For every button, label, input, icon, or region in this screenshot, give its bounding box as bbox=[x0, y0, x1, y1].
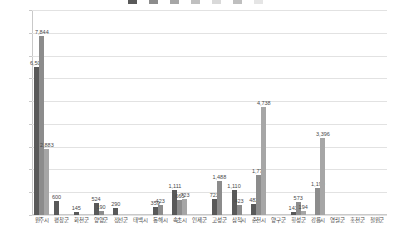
x-axis-labels: 원주시평창군화천군양양군정선군태백시동해시속초시인제군고성군삼척시춘천시양구군횡… bbox=[32, 216, 387, 236]
bar-group bbox=[190, 10, 210, 215]
legend-item[interactable] bbox=[254, 0, 265, 4]
x-axis-category-label: 횡성군 bbox=[288, 216, 308, 236]
bar-groups: 6,5027,8442,8836001455241902903594231,11… bbox=[32, 10, 387, 215]
bar-value-label: 1,111 bbox=[168, 183, 181, 190]
bar-value-label: 1,488 bbox=[212, 174, 226, 181]
legend-item[interactable] bbox=[170, 0, 181, 4]
bar[interactable]: 194 bbox=[301, 211, 306, 215]
bar[interactable]: 290 bbox=[113, 208, 118, 215]
bar-value-label: 600 bbox=[52, 194, 61, 201]
bar[interactable]: 190 bbox=[99, 211, 104, 215]
bar-group: 524190 bbox=[91, 10, 111, 215]
bar[interactable]: 1,488 bbox=[217, 181, 222, 215]
x-axis-category-label: 고성군 bbox=[209, 216, 229, 236]
bar-group bbox=[348, 10, 368, 215]
legend-swatch-icon bbox=[212, 0, 221, 4]
x-axis-category-label: 양구군 bbox=[269, 216, 289, 236]
x-axis-category-label: 평창군 bbox=[52, 216, 72, 236]
bar[interactable]: 723 bbox=[182, 199, 187, 215]
bar[interactable]: 423 bbox=[237, 205, 242, 215]
bar-group: 600 bbox=[52, 10, 72, 215]
bar-group: 1,111665723 bbox=[170, 10, 190, 215]
x-axis-category-label: 삼척시 bbox=[229, 216, 249, 236]
bar[interactable]: 2,883 bbox=[44, 149, 49, 215]
bar-group: 6,5027,8442,883 bbox=[32, 10, 52, 215]
legend-swatch-icon bbox=[149, 0, 158, 4]
x-axis-category-label: 태백시 bbox=[131, 216, 151, 236]
bar-group: 4821,7714,738 bbox=[249, 10, 269, 215]
x-axis-category-label: 화천군 bbox=[71, 216, 91, 236]
x-axis-category-label: 양양군 bbox=[91, 216, 111, 236]
bar-value-label: 290 bbox=[111, 201, 120, 208]
x-axis-category-label: 춘천시 bbox=[249, 216, 269, 236]
x-axis-category-label: 철원군 bbox=[367, 216, 387, 236]
plot-area: 9,0008,0007,0006,0005,0004,0003,0002,000… bbox=[32, 10, 387, 215]
legend-item[interactable] bbox=[128, 0, 139, 4]
legend-swatch-icon bbox=[128, 0, 137, 4]
x-axis-category-label: 정선군 bbox=[111, 216, 131, 236]
legend-item[interactable] bbox=[191, 0, 202, 4]
bar-group: 7231,488 bbox=[209, 10, 229, 215]
bar-group bbox=[269, 10, 289, 215]
bar[interactable]: 423 bbox=[158, 205, 163, 215]
x-axis-category-label: 영월군 bbox=[328, 216, 348, 236]
x-axis-category-label: 동해시 bbox=[150, 216, 170, 236]
bar-group: 290 bbox=[111, 10, 131, 215]
legend-item[interactable] bbox=[149, 0, 160, 4]
bar-value-label: 190 bbox=[96, 204, 105, 211]
legend-swatch-icon bbox=[254, 0, 263, 4]
bar-value-label: 524 bbox=[91, 196, 100, 203]
x-axis-category-label: 강릉시 bbox=[308, 216, 328, 236]
bar-group bbox=[131, 10, 151, 215]
bar-value-label: 573 bbox=[294, 195, 303, 202]
bar[interactable]: 3,396 bbox=[320, 138, 325, 215]
bar[interactable]: 4,738 bbox=[261, 107, 266, 215]
bar-group: 143573194 bbox=[288, 10, 308, 215]
bar-group: 359423 bbox=[150, 10, 170, 215]
x-axis-category-label: 원주시 bbox=[32, 216, 52, 236]
x-axis-category-label: 인제군 bbox=[190, 216, 210, 236]
x-axis-category-label: 홍천군 bbox=[348, 216, 368, 236]
bar-value-label: 1,110 bbox=[227, 183, 240, 190]
bar-group: 145 bbox=[71, 10, 91, 215]
legend-swatch-icon bbox=[233, 0, 242, 4]
legend-item[interactable] bbox=[233, 0, 244, 4]
bar-value-label: 194 bbox=[299, 204, 308, 211]
bar-group bbox=[367, 10, 387, 215]
x-axis-category-label: 속초시 bbox=[170, 216, 190, 236]
legend-swatch-icon bbox=[191, 0, 200, 4]
bar-value-label: 423 bbox=[234, 198, 243, 205]
bar-group: 1,1903,396 bbox=[308, 10, 328, 215]
chart-legend bbox=[128, 0, 265, 6]
bar[interactable]: 145 bbox=[74, 212, 79, 215]
bar[interactable]: 600 bbox=[54, 201, 59, 215]
legend-item[interactable] bbox=[212, 0, 223, 4]
bar-value-label: 145 bbox=[72, 205, 81, 212]
bar-value-label: 423 bbox=[156, 198, 165, 205]
legend-swatch-icon bbox=[170, 0, 179, 4]
bar-value-label: 7,844 bbox=[35, 29, 49, 36]
bar-group: 1,110423 bbox=[229, 10, 249, 215]
bar-chart: 9,0008,0007,0006,0005,0004,0003,0002,000… bbox=[0, 0, 399, 236]
bar-group bbox=[328, 10, 348, 215]
bar-value-label: 723 bbox=[180, 192, 189, 199]
